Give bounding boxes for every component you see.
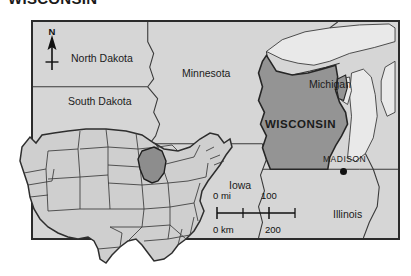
page-title: WISCONSIN [8, 0, 97, 7]
madison-city-marker [340, 168, 347, 175]
us-landmass [20, 129, 232, 263]
inset-us-geometry [2, 121, 234, 273]
compass-rose: N [39, 26, 65, 74]
inset-us-locator-map [2, 121, 234, 273]
scale-miles-end-label: 100 [261, 190, 277, 201]
scale-kilometers-end-label: 200 [265, 224, 281, 235]
compass-north-label: N [39, 26, 65, 37]
